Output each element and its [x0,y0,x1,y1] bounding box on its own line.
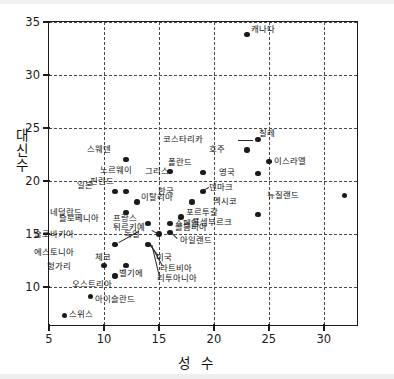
data-point[interactable] [88,294,93,299]
x-axis-tick [158,324,160,331]
data-point[interactable] [123,189,128,194]
data-point-label: 아일랜드 [180,236,212,244]
plot-area: 10152025303551015202530캐나다칠레코스타리카호주스웨덴이스… [48,21,358,326]
data-point-label: 이스라엘 [274,157,306,165]
data-point-label: 폴란드 [168,158,192,166]
data-point[interactable] [266,159,271,164]
data-point-label: 멕시코 [213,197,237,205]
data-point[interactable] [167,221,172,226]
label-leader-line [238,140,253,141]
data-point-label: 핀란드 [90,177,114,185]
data-point[interactable] [255,171,260,176]
data-point[interactable] [255,212,260,217]
data-point[interactable] [112,273,117,278]
x-axis-tick [103,324,105,331]
x-axis-tick-label: 30 [316,332,331,346]
data-point-label: 영국 [219,168,235,176]
data-point-label: 체코 [95,253,111,261]
data-point-label: 한국 [158,187,174,195]
data-point-label: 슬로바키아 [34,230,74,238]
data-point-label: 리투아니아 [157,274,197,282]
bottom-border-band [0,374,394,379]
data-point[interactable] [145,221,150,226]
data-point[interactable] [244,32,249,37]
x-axis-tick-label: 20 [207,332,222,346]
gridline-vertical [214,22,215,325]
data-point-label: 호주 [209,145,225,153]
y-axis-tick [43,127,50,129]
data-point-label: 노르웨이 [100,166,132,174]
top-border-band [0,0,394,4]
data-point-label: 라트비아 [160,264,192,272]
gridline-vertical [324,22,325,325]
data-point-label: 벨기에 [119,269,143,277]
x-axis-tick-label: 5 [45,332,52,346]
data-point-label: 스위스 [69,310,93,318]
y-axis-tick [43,21,50,23]
data-point[interactable] [112,189,117,194]
data-point[interactable] [134,199,139,204]
data-point-label: 그리스 [145,167,169,175]
data-point-label: 에스토니아 [34,248,74,256]
data-point-label: 코스타리카 [163,135,203,143]
data-point[interactable] [101,263,106,268]
x-axis-tick-label: 15 [152,332,167,346]
y-axis-tick-label: 35 [25,15,40,29]
data-point-label: 포르투갈 [186,208,218,216]
y-axis-tick-label: 20 [25,174,40,188]
data-point-label: 덴마크 [209,183,233,191]
data-point-label: 아이슬란드 [95,295,135,303]
data-point[interactable] [145,242,150,247]
data-point-label: 콜롬비아 [175,223,207,231]
data-point[interactable] [167,230,172,235]
x-axis-tick [268,324,270,331]
data-point[interactable] [62,313,67,318]
data-point[interactable] [156,231,161,236]
data-point-label: 미국 [156,253,172,261]
scatter-chart-figure: 대신수 10152025303551015202530캐나다칠레코스타리카호주스… [0,0,394,379]
y-axis-tick-label: 25 [25,121,40,135]
data-point[interactable] [244,147,249,152]
data-point[interactable] [200,170,205,175]
data-point-label: 캐나다 [251,25,275,33]
gridline-horizontal [49,22,357,23]
data-point-label: 오스트리아 [72,280,112,288]
data-point-label: 슬로베니아 [59,214,99,222]
x-axis-tick [323,324,325,331]
y-axis-tick [43,180,50,182]
gridline-horizontal [49,75,357,76]
gridline-vertical [269,22,270,325]
y-axis-tick [43,286,50,288]
gridline-horizontal [49,128,357,129]
y-axis-title-char: 수 [12,158,32,173]
data-point-label: 뉴질랜드 [267,191,299,199]
x-axis-tick [213,324,215,331]
data-point[interactable] [200,189,205,194]
x-axis-tick-label: 10 [97,332,112,346]
data-point-label: 칠레 [259,129,275,137]
x-axis-tick [48,324,50,331]
x-axis-tick-label: 25 [262,332,277,346]
data-point[interactable] [112,242,117,247]
y-axis-tick-label: 30 [25,68,40,82]
data-point-label: 헝가리 [47,262,71,270]
data-point-label: 스웨덴 [87,145,111,153]
y-axis-title-char: 신 [12,143,32,158]
data-point[interactable] [342,193,347,198]
data-point[interactable] [189,199,194,204]
y-axis-tick [43,74,50,76]
x-axis-title: 성 수 [0,352,394,372]
data-point[interactable] [123,157,128,162]
y-axis-tick-label: 10 [25,280,40,294]
data-point-label: 독일 [124,230,140,238]
